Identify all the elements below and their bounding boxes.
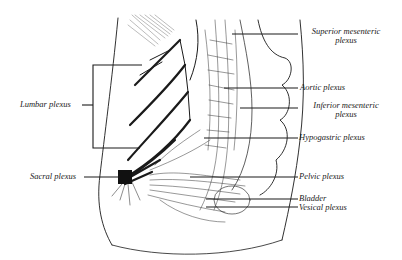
label-superior-mesenteric-plexus: Superior mesenteric plexus: [298, 27, 394, 45]
label-aortic-plexus: Aortic plexus: [300, 83, 345, 92]
label-vesical-plexus: Vesical plexus: [299, 203, 347, 212]
label-inferior-mesenteric-plexus: Inferior mesenteric plexus: [298, 101, 394, 119]
anatomy-diagram: Superior mesenteric plexus Aortic plexus…: [0, 0, 402, 260]
label-line: plexus: [298, 36, 394, 45]
label-pelvic-plexus: Pelvic plexus: [299, 172, 344, 181]
label-lumbar-plexus: Lumbar plexus: [20, 100, 71, 109]
label-sacral-plexus: Sacral plexus: [30, 172, 76, 181]
label-line: plexus: [298, 110, 394, 119]
label-hypogastric-plexus: Hypogastric plexus: [299, 133, 365, 142]
